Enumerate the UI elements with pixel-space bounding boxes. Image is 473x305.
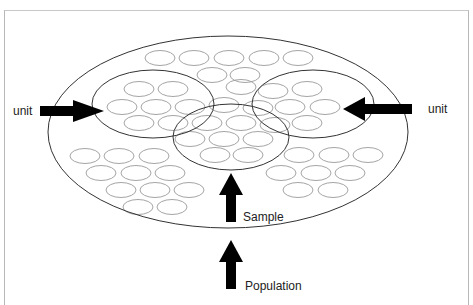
member-ellipse xyxy=(214,51,244,66)
member-ellipse xyxy=(243,132,273,147)
member-ellipse xyxy=(292,116,322,131)
sample-arrow-icon xyxy=(219,173,243,222)
member-ellipse xyxy=(175,100,205,115)
unit-label-right: unit xyxy=(428,102,447,116)
member-ellipse xyxy=(107,100,137,115)
member-ellipse xyxy=(139,149,169,164)
member-ellipse xyxy=(283,183,313,198)
member-ellipse xyxy=(275,100,305,115)
member-ellipse xyxy=(258,84,288,99)
member-ellipse xyxy=(233,148,263,163)
member-ellipse xyxy=(155,166,185,181)
unit-label-left: unit xyxy=(13,104,32,118)
member-ellipse xyxy=(335,166,365,181)
member-ellipse xyxy=(124,116,154,131)
member-ellipse xyxy=(104,149,134,164)
member-ellipse xyxy=(179,51,209,66)
member-ellipse xyxy=(70,149,100,164)
member-ellipse xyxy=(158,82,188,97)
member-ellipse xyxy=(319,148,349,163)
population-label: Population xyxy=(245,279,302,293)
member-ellipse xyxy=(226,80,256,95)
member-ellipse xyxy=(318,183,348,198)
sample-unit-circle xyxy=(173,104,289,170)
member-ellipse xyxy=(145,51,175,66)
member-ellipse xyxy=(209,132,239,147)
sample-label: Sample xyxy=(243,210,284,224)
member-ellipse xyxy=(283,51,313,66)
member-ellipse xyxy=(200,148,230,163)
member-ellipse xyxy=(353,148,383,163)
member-ellipse xyxy=(141,100,171,115)
left-unit-circle xyxy=(92,70,214,138)
member-ellipse xyxy=(124,82,154,97)
member-ellipse xyxy=(226,116,256,131)
member-ellipse xyxy=(140,183,170,198)
member-ellipse xyxy=(121,166,151,181)
population-arrow-icon xyxy=(219,240,243,289)
member-ellipse xyxy=(197,68,227,83)
member-ellipse xyxy=(249,51,279,66)
member-ellipse xyxy=(123,200,153,215)
member-ellipse xyxy=(174,183,204,198)
member-ellipse xyxy=(157,200,187,215)
member-ellipse xyxy=(301,166,331,181)
member-ellipse xyxy=(266,166,296,181)
member-ellipse xyxy=(175,132,205,147)
member-ellipse xyxy=(284,148,314,163)
member-ellipse xyxy=(292,82,322,97)
member-ellipse xyxy=(86,166,116,181)
member-ellipse xyxy=(310,100,340,115)
member-ellipse xyxy=(106,183,136,198)
right-unit-arrow-icon xyxy=(343,97,412,121)
